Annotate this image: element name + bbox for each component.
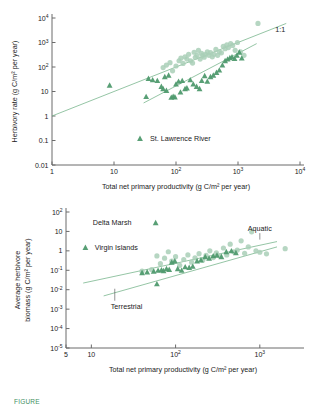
data-point [202,73,208,78]
x-axis-title: Total net primary productivity (g C/m² p… [109,365,257,374]
data-point [242,251,247,256]
data-point [107,82,113,87]
y-tick-label: 103 [38,38,49,47]
fit-line [52,23,286,116]
data-point [83,245,89,250]
data-point [190,60,195,65]
y-tick-label: 104 [38,13,49,22]
data-point [221,245,226,250]
data-point [178,89,184,94]
x-tick-label: 104 [295,166,306,175]
data-point [173,63,178,68]
y-tick-label: 10 [41,88,49,95]
y-tick-label: 10-1 [50,265,62,274]
data-point [167,60,172,65]
y-tick-label: 1 [45,113,49,120]
data-point [255,21,260,26]
y-tick-label: 10-2 [50,285,62,294]
data-point [216,67,222,72]
data-point [219,50,224,55]
data-point [228,242,233,247]
data-point [185,252,190,257]
figure-container: 1101021031041041031021010.10.011:1St. La… [0,0,313,409]
legend-label: St. Lawrence River [150,134,211,143]
data-point [246,244,251,249]
chart-bottom-svg: 51010210310210110-110-210-310-410-5Delta… [0,190,313,395]
x-tick-label: 103 [255,349,266,358]
data-point [180,61,185,66]
data-point [166,249,171,254]
data-point [143,94,149,99]
figure-caption: FIGURE [14,398,313,405]
data-point [199,78,205,83]
data-point [186,52,191,57]
y-tick-label: 102 [38,62,49,71]
y-tick-label: 1 [59,247,63,254]
data-point [204,78,210,83]
data-point [153,220,159,225]
y-tick-label: 10-5 [50,343,62,352]
annotation-virgin-islands: Virgin Islands [95,243,138,252]
data-point [207,248,212,253]
y-tick-label: 0.01 [35,162,49,169]
data-point [170,68,175,73]
annotation-terrestrial: Terrestrial [111,302,143,311]
data-point [189,260,194,265]
data-point [154,253,159,258]
data-point [196,251,201,256]
data-point [230,43,235,48]
data-point [173,254,178,259]
data-point [162,256,167,261]
x-tick-label: 10 [87,351,95,358]
y-tick-label: 102 [52,207,63,216]
x-tick-label: 103 [233,166,244,175]
x-tick-label: 1 [50,168,54,175]
chart-herbivore-biomass: 51010210310210110-110-210-310-410-5Delta… [0,190,313,395]
y-axis-title-line2: biomass (g C/m² per year) [23,238,32,321]
data-point [264,251,269,256]
y-tick-label: 10-4 [50,324,62,333]
data-point [179,78,185,83]
data-point [154,78,160,83]
data-point [181,257,186,262]
series-aquatic [161,21,261,74]
data-point [233,48,238,53]
legend-marker-triangle [137,136,143,141]
y-axis-title: Herbivory rate (g C/m² per year) [10,41,19,143]
series-aquatic [139,229,287,274]
series-st-lawrence-river [107,49,245,99]
y-tick-label: 10-3 [50,304,62,313]
x-tick-label: 102 [170,349,181,358]
data-point [283,246,288,251]
chart-herbivory-rate: 1101021031041041031021010.10.011:1St. La… [0,0,313,200]
x-tick-label: 102 [171,166,182,175]
data-point [257,250,262,255]
y-tick-label: 0.1 [39,137,49,144]
y-tick-label: 10 [55,228,63,235]
annotation-1to1: 1:1 [275,25,285,34]
data-point [158,261,163,266]
data-point [166,72,172,77]
y-axis-title-line1: Average herbivore [13,251,22,310]
annotation-delta-marsh: Delta Marsh [93,218,132,227]
annotation-aquatic: Aquatic [248,224,272,233]
x-tick-label: 10 [110,168,118,175]
data-point [235,40,240,45]
x-tick-label: 5 [64,351,68,358]
data-point [239,238,244,243]
chart-top-svg: 1101021031041041031021010.10.011:1St. La… [0,0,313,200]
